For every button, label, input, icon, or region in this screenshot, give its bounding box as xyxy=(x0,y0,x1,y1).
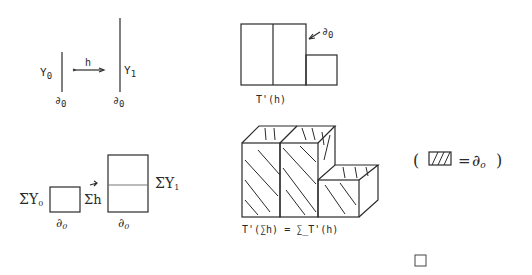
legend-boundary-symbol: ∂o xyxy=(472,151,486,170)
panel-t-prime-h: ∂0 T'(h) xyxy=(241,24,337,105)
label-sum-y1: ΣY1 xyxy=(155,175,179,192)
label-y1: Y1 xyxy=(124,64,136,79)
legend-open-paren: ( xyxy=(413,151,419,170)
legend-close-paren: ) xyxy=(496,151,502,170)
label-sum-h: Σh xyxy=(84,192,102,207)
label-sum-boundary-left: ∂0 xyxy=(56,216,67,231)
legend-hatched-swatch xyxy=(429,152,451,165)
caption-t-prime-sum-h: T'(∑h) = ∑_T'(h) xyxy=(242,224,338,236)
panel-sum-map: ΣY0 ∂0 Σh ΣY1 ∂0 xyxy=(19,155,179,231)
label-h: h xyxy=(85,57,91,68)
front-face-short xyxy=(318,180,359,217)
legend: ( = ∂o ) xyxy=(413,151,502,170)
panel-h-map: Y0 ∂0 h Y1 ∂0 xyxy=(40,18,136,109)
panel-t-prime-sum-h: T'(∑h) = ∑_T'(h) xyxy=(242,126,378,236)
top-face-divider xyxy=(280,126,297,143)
sum-y0-box xyxy=(50,187,80,212)
label-boundary-left: ∂0 xyxy=(55,95,66,109)
diagram-canvas: Y1 ===== --> Y0 ∂0 h Y1 ∂0 ∂0 T'(h) ΣY1 … xyxy=(0,0,532,275)
label-y0: Y0 xyxy=(40,66,52,81)
label-boundary-pointer: ∂0 xyxy=(322,26,333,40)
label-boundary-right: ∂0 xyxy=(113,95,124,109)
sum-arrow-icon xyxy=(90,181,97,186)
legend-equals: = xyxy=(458,152,471,170)
end-of-proof-mark xyxy=(415,255,426,266)
top-face-short xyxy=(318,165,378,180)
short-block xyxy=(306,55,337,85)
sum-y1-box xyxy=(108,155,148,212)
caption-t-prime-h: T'(h) xyxy=(256,94,286,105)
label-sum-boundary-right: ∂0 xyxy=(118,216,129,231)
label-sum-y0: ΣY0 xyxy=(19,191,43,208)
hatch-pattern xyxy=(245,128,368,215)
